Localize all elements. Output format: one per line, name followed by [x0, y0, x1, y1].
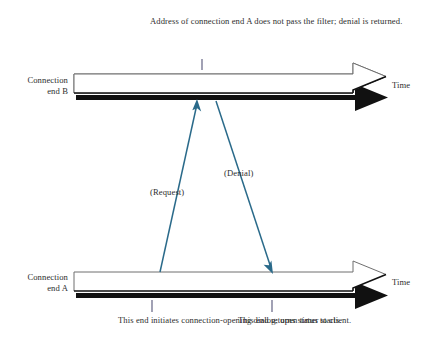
request-message-arrowhead	[192, 99, 201, 112]
annotation-status-note: This end returns status to client.	[238, 315, 334, 326]
axis-label-time-bottom: Time	[392, 277, 410, 288]
sequence-diagram: Connection end B Time Connection end A T…	[0, 0, 427, 360]
axis-label-time-top: Time	[392, 80, 410, 91]
lifeline-a-bar-fill	[74, 272, 353, 291]
lifeline-label-end-a: Connection end A	[8, 272, 68, 293]
message-label-denial: (Denial)	[224, 168, 276, 179]
lifeline-b-bar-fill	[74, 74, 353, 93]
message-label-request: (Request)	[150, 187, 202, 198]
annotation-filter-note: Address of connection end A does not pas…	[150, 16, 274, 27]
denial-message-line	[216, 101, 271, 268]
diagram-canvas	[0, 0, 427, 360]
annotation-initiate-note: This end initiates connection-opening di…	[118, 315, 230, 326]
lifeline-label-end-b: Connection end B	[8, 75, 68, 96]
